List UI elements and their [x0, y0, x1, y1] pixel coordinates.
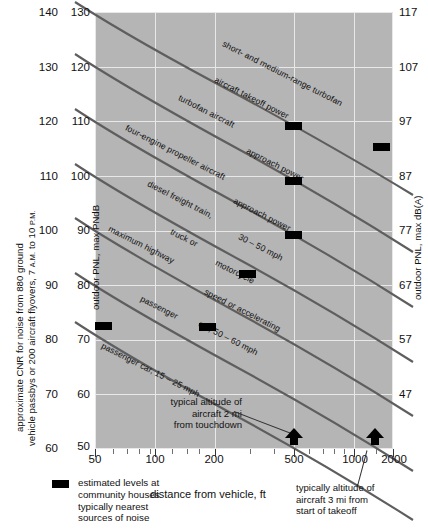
marker-turbofan-takeoff: [373, 143, 390, 151]
marker-passenger-car-15-25: [95, 322, 112, 330]
yaxis-left-outer-title-line1: approximate CNR for noise from 880 groun…: [14, 243, 25, 432]
curve-diesel-freight-train: [75, 164, 413, 362]
ytick-left-inner-110: 110: [58, 115, 90, 127]
ytick-left-outer-100: 100: [16, 224, 58, 236]
ytick-left-inner-50: 50: [58, 440, 90, 452]
yaxis-left-outer-title-line2: vehicle passbys or 200 aircraft flyovers…: [26, 210, 37, 446]
xtick-100: 100: [138, 453, 172, 465]
xtick-mark-700: [323, 449, 324, 454]
ytick-right-107: 107: [399, 61, 428, 73]
legend-text: estimated levels at community houses typ…: [78, 477, 160, 524]
yaxis-left-outer-title-line2-text: vehicle passbys or 200 aircraft flyovers…: [26, 267, 37, 446]
marker-four-engine-propeller: [285, 177, 302, 185]
xtick-mark-400: [274, 449, 275, 454]
legend-marker-swatch-icon: [52, 480, 69, 488]
am-superscript: A.M.: [28, 252, 37, 268]
xtick-200: 200: [197, 453, 231, 465]
annotation-takeoff-line1: typically altitude of: [296, 482, 416, 494]
ytick-left-outer-110: 110: [16, 170, 58, 182]
ytick-left-inner-80: 80: [58, 279, 90, 291]
ytick-left-outer-60: 60: [16, 442, 58, 454]
xtick-mark-150-a: [172, 449, 173, 454]
ytick-left-outer-140: 140: [16, 6, 58, 18]
marker-turbofan-approach: [285, 122, 302, 130]
yaxis-right-title: outdoor PNL, max dB(A): [412, 195, 423, 300]
plot-area: short- and medium-range turbofan aircraf…: [95, 12, 393, 449]
pm-superscript: P.M.: [28, 210, 37, 225]
xtick-mark-60: [113, 449, 114, 454]
annotation-takeoff-line2: aircraft 3 mi from: [296, 494, 416, 506]
ytick-left-inner-70: 70: [58, 333, 90, 345]
arrow-shaft-takeoff: [371, 436, 379, 445]
ytick-left-inner-60: 60: [58, 388, 90, 400]
ytick-left-outer-130: 130: [16, 61, 58, 73]
xtick-mark-300: [250, 449, 251, 454]
xtick-500: 500: [277, 453, 311, 465]
ytick-right-97: 97: [399, 115, 428, 127]
curves-group: [95, 12, 393, 449]
annotation-touchdown-line2: aircraft 2 mi: [112, 408, 242, 420]
curve-passenger-car-50-60: [75, 273, 413, 471]
arrow-shaft-touchdown: [290, 436, 298, 445]
annotation-touchdown-line1: typical altitude of: [112, 396, 242, 408]
ytick-left-inner-100: 100: [58, 170, 90, 182]
marker-passenger-car-50-60: [199, 323, 216, 331]
curve-max-highway-truck-motorcycle: [75, 218, 413, 416]
xtick-1000: 1000: [335, 453, 375, 465]
ytick-right-117: 117: [399, 6, 428, 18]
marker-diesel-freight-train: [285, 231, 302, 239]
yaxis-left-inner-title: outdoor PNL, max PNdB: [90, 205, 101, 310]
marker-max-highway: [239, 270, 256, 278]
annotation-takeoff: typically altitude of aircraft 3 mi from…: [296, 482, 416, 517]
ytick-right-47: 47: [399, 388, 428, 400]
ytick-left-inner-130: 130: [58, 6, 90, 18]
ytick-left-outer-120: 120: [16, 115, 58, 127]
annotation-touchdown-line3: from touchdown: [112, 419, 242, 431]
ytick-left-inner-120: 120: [58, 61, 90, 73]
legend: estimated levels at community houses typ…: [52, 477, 160, 524]
annotation-touchdown: typical altitude of aircraft 2 mi from t…: [112, 396, 242, 431]
annotation-takeoff-line3: start of takeoff: [296, 505, 416, 517]
ytick-left-inner-90: 90: [58, 224, 90, 236]
xtick-2000: 2000: [373, 453, 415, 465]
xtick-50: 50: [78, 453, 112, 465]
xtick-mark-70: [127, 449, 128, 454]
ytick-right-87: 87: [399, 170, 428, 182]
ytick-right-57: 57: [399, 333, 428, 345]
xtick-mark-150-b: [187, 449, 188, 454]
